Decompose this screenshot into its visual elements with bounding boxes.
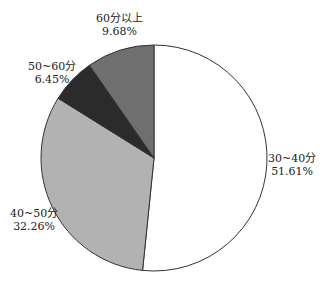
pie-slice: [143, 45, 267, 271]
label-30-40: 30~40分 51.61%: [268, 152, 316, 178]
label-percent: 9.68%: [96, 25, 143, 38]
label-40-50: 40~50分 32.26%: [10, 207, 58, 233]
label-category: 40~50分: [10, 207, 58, 220]
label-category: 60分以上: [96, 12, 143, 25]
label-category: 30~40分: [268, 152, 316, 165]
pie-chart: [0, 0, 322, 290]
label-60-plus: 60分以上 9.68%: [96, 12, 143, 38]
label-percent: 6.45%: [28, 73, 76, 86]
label-percent: 32.26%: [10, 220, 58, 233]
label-50-60: 50~60分 6.45%: [28, 60, 76, 86]
label-percent: 51.61%: [268, 165, 316, 178]
label-category: 50~60分: [28, 60, 76, 73]
